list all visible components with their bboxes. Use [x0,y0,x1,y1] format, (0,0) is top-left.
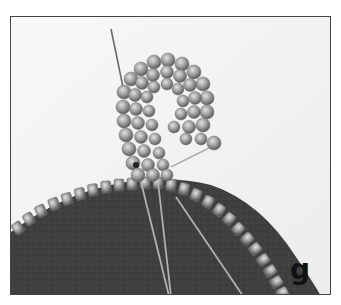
step-label: g [290,256,310,284]
dark-bead [133,162,139,168]
beadwork-photo [11,17,331,295]
photo-frame: g [10,16,331,295]
photo-figure: g [0,0,341,305]
